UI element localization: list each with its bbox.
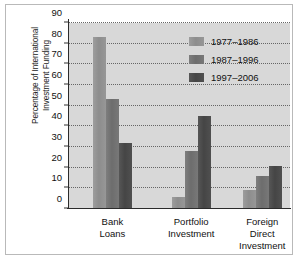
- chart-frame: Percentage of International Investment F…: [5, 4, 293, 255]
- y-axis-title-line-2: Investment Funding: [40, 0, 51, 166]
- y-tick-label: 90: [51, 7, 62, 18]
- bar: [198, 116, 211, 209]
- legend-label: 1987–1996: [211, 54, 259, 65]
- bar-group: BankLoans: [93, 23, 132, 209]
- bar: [93, 37, 106, 209]
- bar: [119, 143, 132, 209]
- y-tick-label: 20: [51, 151, 62, 162]
- legend-item: 1987–1996: [189, 51, 259, 67]
- chart-legend: 1977–19861987–19961997–2006: [189, 33, 259, 87]
- y-tick-label: 10: [51, 172, 62, 183]
- y-tick-label: 0: [57, 193, 62, 204]
- x-axis-line: [67, 208, 291, 209]
- legend-swatch: [189, 73, 204, 82]
- y-axis-title-line-1: Percentage of International: [30, 0, 41, 166]
- legend-item: 1977–1986: [189, 33, 259, 49]
- legend-swatch: [189, 55, 204, 64]
- legend-label: 1977–1986: [211, 36, 259, 47]
- plot-area: 0102030405060708090 BankLoansPortfolioIn…: [68, 23, 290, 209]
- legend-item: 1997–2006: [189, 69, 259, 85]
- bar: [106, 99, 119, 209]
- chart-figure: Percentage of International Investment F…: [0, 0, 298, 260]
- legend-label: 1997–2006: [211, 72, 259, 83]
- bar: [185, 151, 198, 209]
- y-tick-label: 30: [51, 131, 62, 142]
- x-axis-group-label-line: Direct: [207, 228, 298, 240]
- x-axis-group-label-line: Foreign: [207, 216, 298, 228]
- x-axis-group-label-line: Investment: [207, 240, 298, 252]
- y-tick-label: 80: [51, 27, 62, 38]
- bar: [269, 166, 282, 209]
- x-axis-group-label: ForeignDirectInvestment: [207, 216, 298, 252]
- y-tick-label: 70: [51, 48, 62, 59]
- bar: [256, 176, 269, 209]
- y-tick-label: 50: [51, 89, 62, 100]
- y-tick-label: 60: [51, 69, 62, 80]
- bar: [243, 190, 256, 209]
- legend-swatch: [189, 37, 204, 46]
- y-axis-title: Percentage of International Investment F…: [30, 0, 51, 166]
- y-tick-label: 40: [51, 110, 62, 121]
- y-axis-line: [68, 19, 69, 209]
